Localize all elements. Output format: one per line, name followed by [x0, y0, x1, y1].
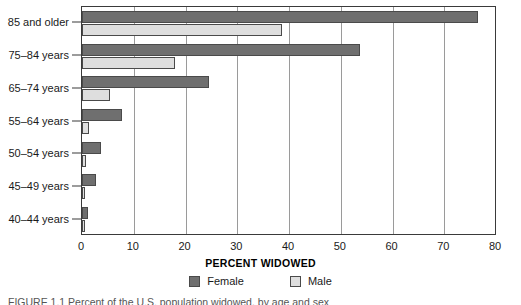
legend-item-female: Female	[189, 275, 244, 287]
y-axis-label: 65–74 years	[8, 82, 69, 94]
bar-female	[82, 207, 88, 219]
y-axis-label: 55–64 years	[8, 115, 69, 127]
x-axis-tick-label: 70	[437, 240, 449, 252]
y-axis-labels: 85 and older75–84 years65–74 years55–64 …	[0, 6, 81, 235]
bar-female	[82, 142, 101, 154]
legend-label-male: Male	[308, 275, 332, 287]
bar-group	[82, 105, 495, 138]
bar-male	[82, 89, 110, 101]
y-axis-tick	[72, 87, 81, 88]
bar-female	[82, 76, 209, 88]
x-axis-tick-labels: 01020304050607080	[81, 235, 496, 255]
bar-group	[82, 7, 495, 40]
bar-male	[82, 220, 85, 232]
bar-group	[82, 171, 495, 204]
bar-male	[82, 155, 86, 167]
x-axis-tick-label: 20	[178, 240, 190, 252]
x-axis-tick-label: 80	[489, 240, 501, 252]
chart-legend: Female Male	[0, 275, 521, 287]
y-axis-tick	[72, 120, 81, 121]
x-axis-title: PERCENT WIDOWED	[0, 257, 521, 269]
figure-caption: FIGURE 1.1 Percent of the U.S. populatio…	[8, 296, 513, 305]
x-axis-tick-label: 30	[230, 240, 242, 252]
bar-groups	[82, 7, 495, 234]
x-axis-tick-label: 50	[334, 240, 346, 252]
figure-chart-percent-widowed: 85 and older75–84 years65–74 years55–64 …	[0, 0, 521, 305]
x-axis-tick-label: 0	[78, 240, 84, 252]
legend-swatch-male-icon	[290, 276, 301, 287]
x-axis-tick-label: 40	[282, 240, 294, 252]
y-axis-tick	[72, 55, 81, 56]
y-axis-label: 45–49 years	[8, 180, 69, 192]
bar-male	[82, 24, 282, 36]
x-axis-tick-label: 10	[127, 240, 139, 252]
legend-swatch-female-icon	[189, 276, 200, 287]
bar-female	[82, 174, 96, 186]
y-axis-label: 75–84 years	[8, 49, 69, 61]
y-axis-label: 50–54 years	[8, 147, 69, 159]
bar-male	[82, 122, 89, 134]
legend-item-male: Male	[290, 275, 332, 287]
y-axis-tick	[72, 218, 81, 219]
bar-group	[82, 203, 495, 236]
y-axis-tick	[72, 185, 81, 186]
bar-female	[82, 11, 478, 23]
plot-area	[81, 6, 496, 235]
bar-male	[82, 187, 85, 199]
bar-male	[82, 57, 175, 69]
bar-group	[82, 40, 495, 73]
y-axis-tick	[72, 22, 81, 23]
legend-label-female: Female	[207, 275, 244, 287]
bar-female	[82, 109, 122, 121]
y-axis-label: 85 and older	[8, 16, 69, 28]
bar-group	[82, 138, 495, 171]
bar-female	[82, 44, 360, 56]
y-axis-label: 40–44 years	[8, 213, 69, 225]
bar-group	[82, 72, 495, 105]
y-axis-tick	[72, 153, 81, 154]
x-axis-tick-label: 60	[385, 240, 397, 252]
